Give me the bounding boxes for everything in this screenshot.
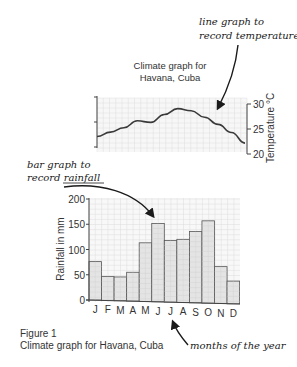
arrow-to-months-icon <box>173 322 188 345</box>
rainfall-axis-ticks: 050100150200 <box>68 194 89 306</box>
svg-text:25: 25 <box>253 124 265 135</box>
month-label: J <box>156 306 161 317</box>
month-label: M <box>141 305 149 316</box>
svg-text:50: 50 <box>74 270 86 281</box>
month-label: J <box>93 304 98 315</box>
month-label: S <box>192 307 199 318</box>
climate-figure: Climate graph for Havana, Cuba line grap… <box>0 0 297 367</box>
rainfall-bar-chart: 050100150200 JFMAMJJASOND Rainfall in mm <box>55 194 240 319</box>
svg-text:150: 150 <box>68 219 85 230</box>
temperature-line-chart: 202530 Temperature °C <box>94 93 276 163</box>
month-labels: JFMAMJJASOND <box>93 304 237 319</box>
temperature-grid <box>97 98 247 152</box>
svg-text:0: 0 <box>79 295 85 306</box>
temperature-axis-ticks: 202530 <box>247 99 265 160</box>
month-label: J <box>168 306 173 317</box>
month-label: F <box>105 304 111 315</box>
svg-text:200: 200 <box>68 194 85 205</box>
temperature-axis-label: Temperature °C <box>265 93 276 163</box>
svg-text:20: 20 <box>253 149 265 160</box>
month-label: D <box>230 308 237 319</box>
month-label: N <box>217 308 224 319</box>
svg-text:100: 100 <box>68 245 85 256</box>
month-label: A <box>130 305 137 316</box>
month-label: O <box>204 307 212 318</box>
month-label: A <box>180 306 187 317</box>
rainfall-axis-label: Rainfall in mm <box>55 217 66 280</box>
charts-canvas: 202530 Temperature °C 050100150200 JFMAM… <box>0 0 297 367</box>
svg-text:30: 30 <box>253 99 265 110</box>
month-label: M <box>116 305 124 316</box>
